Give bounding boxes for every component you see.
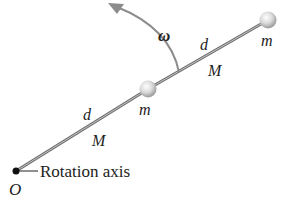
rod-outer-mass-label: M bbox=[208, 63, 221, 79]
mass-middle-label: m bbox=[139, 102, 151, 118]
rod-outer-length-label: d bbox=[200, 37, 208, 53]
mass-end-label: m bbox=[261, 33, 273, 49]
origin-label: O bbox=[9, 181, 21, 198]
rod-inner-mass-label: M bbox=[92, 133, 105, 149]
rotation-axis-label: Rotation axis bbox=[40, 163, 130, 180]
pivot-point-icon bbox=[13, 168, 20, 175]
rod-inner bbox=[16, 89, 148, 171]
mass-middle-sphere bbox=[140, 81, 157, 98]
mass-end-sphere bbox=[260, 12, 277, 29]
omega-label: ω bbox=[158, 27, 170, 44]
rod-inner-length-label: d bbox=[83, 107, 91, 123]
